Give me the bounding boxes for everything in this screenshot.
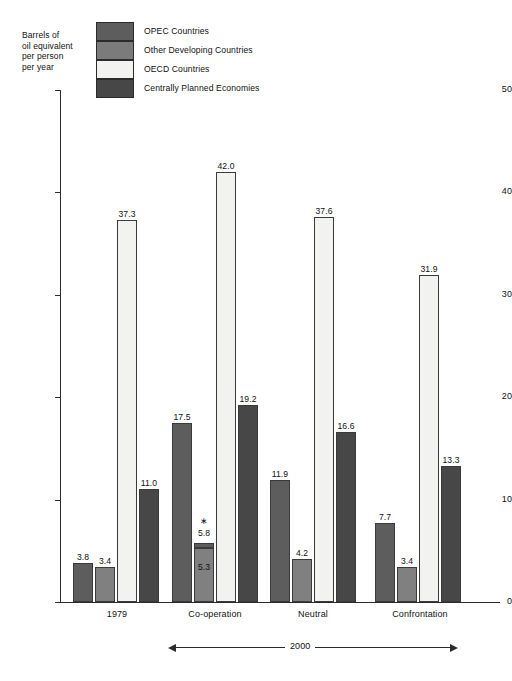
y-tick-label-30: 30 [476,289,512,299]
bar-rect [139,489,159,602]
bar-label-neutral-oecd: 37.6 [301,206,347,216]
bar-rect [216,172,236,602]
y-tick-20 [55,397,60,398]
range-annotation-2000: 2000 [168,641,458,655]
y-axis-line [60,90,61,603]
arrow-right-icon [450,644,458,652]
y-tick-0 [55,602,60,603]
bar-label-neutral-centrally-planned: 16.6 [323,421,369,431]
bar-label-1979-centrally-planned: 11.0 [126,478,172,488]
bar-neutral-other-developing[interactable] [292,559,312,602]
bar-rect [73,563,93,602]
bar-1979-centrally-planned[interactable] [139,489,159,602]
bar-rect [238,405,258,602]
bar-rect [95,567,115,602]
bar-cooperation-other-developing[interactable] [194,543,214,602]
bar-neutral-oecd[interactable] [314,217,334,602]
bar-cooperation-oecd[interactable] [216,172,236,602]
y-tick-label-0: 0 [476,596,512,606]
bar-rect [397,567,417,602]
y-tick-40 [55,192,60,193]
bar-rect [336,432,356,602]
x-group-label-1979: 1979 [93,609,141,619]
x-group-label-neutral: Neutral [285,609,341,619]
plot-area: 0 10 20 30 40 50 3.8 3.4 37.3 11.0 1979 [0,0,512,681]
bar-label-confrontation-centrally-planned: 13.3 [428,455,474,465]
bar-1979-other-developing[interactable] [95,567,115,602]
y-tick-label-10: 10 [476,494,512,504]
bar-label-confrontation-opec: 7.7 [362,512,408,522]
y-tick-label-40: 40 [476,186,512,196]
y-tick-50 [55,90,60,91]
bar-rect [314,217,334,602]
bar-cooperation-centrally-planned[interactable] [238,405,258,602]
x-axis-line [60,602,500,603]
bar-neutral-centrally-planned[interactable] [336,432,356,602]
bar-cooperation-opec[interactable] [172,423,192,602]
bar-rect [270,480,290,602]
y-tick-label-20: 20 [476,391,512,401]
bar-label-cooperation-centrally-planned: 19.2 [225,394,271,404]
y-tick-30 [55,295,60,296]
bar-rect [441,466,461,602]
range-annotation-label: 2000 [285,641,315,651]
y-tick-10 [55,500,60,501]
bar-1979-opec[interactable] [73,563,93,602]
bar-rect [194,548,214,602]
bar-label-1979-oecd: 37.3 [104,209,150,219]
bar-rect [419,275,439,602]
bar-label-neutral-opec: 11.9 [257,469,303,479]
bar-rect [292,559,312,602]
bar-confrontation-oecd[interactable] [419,275,439,602]
bar-overlay-rect [194,543,214,548]
x-group-label-cooperation: Co-operation [168,609,262,619]
x-group-label-confrontation: Confrontation [377,609,463,619]
chart-root: Barrels of oil equivalent per person per… [0,0,512,681]
bar-confrontation-other-developing[interactable] [397,567,417,602]
bar-label-cooperation-opec: 17.5 [159,412,205,422]
bar-label-cooperation-oecd: 42.0 [203,161,249,171]
y-tick-label-50: 50 [476,84,512,94]
bar-confrontation-centrally-planned[interactable] [441,466,461,602]
bar-1979-oecd[interactable] [117,220,137,602]
bar-rect [172,423,192,602]
bar-rect [117,220,137,602]
bar-label-confrontation-oecd: 31.9 [406,264,452,274]
bar-neutral-opec[interactable] [270,480,290,602]
